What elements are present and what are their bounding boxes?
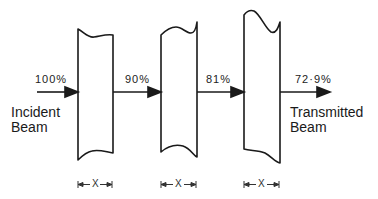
slab-1 (78, 29, 113, 160)
slab-2 (161, 22, 197, 157)
transmitted-beam-label: Transmitted Beam (290, 105, 363, 135)
thickness-label-3: X (258, 178, 265, 189)
intensity-label-100: 100% (35, 73, 67, 85)
thickness-label-2: X (175, 178, 182, 189)
slab-3 (244, 11, 280, 163)
thickness-label-1: X (92, 178, 99, 189)
incident-beam-label: Incident Beam (11, 105, 60, 135)
intensity-label-90: 90% (125, 73, 150, 85)
intensity-label-81: 81% (206, 73, 231, 85)
intensity-label-72-9: 72·9% (295, 73, 332, 85)
diagram-canvas (0, 0, 378, 199)
